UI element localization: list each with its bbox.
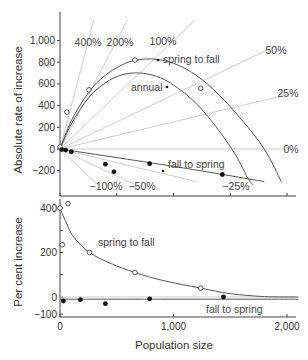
point-spring-to-fall <box>198 86 203 91</box>
reference-label-neg25pct: −25% <box>222 180 249 192</box>
point-fall-to-spring <box>147 296 152 301</box>
top-y-tick-label: 600 <box>38 78 55 89</box>
point-fall-to-spring <box>69 149 74 154</box>
point-spring-to-fall <box>66 201 71 206</box>
point-fall-to-spring <box>103 301 108 306</box>
bottom-x-tick-label: 2,000 <box>274 321 299 332</box>
reference-label-200pct: 200% <box>107 36 134 48</box>
annotation-fall-to-spring-pointer <box>162 170 165 173</box>
top-y-tick-label: 1,000 <box>30 35 55 46</box>
point-spring-to-fall <box>133 58 138 63</box>
bottom-curves <box>60 208 298 299</box>
bottom-y-tick-label: 0 <box>51 292 57 303</box>
x-axis-label: Population size <box>135 339 213 351</box>
top-y-axis-label: Absolute rate of increase <box>12 46 24 173</box>
point-fall-to-spring <box>63 148 68 153</box>
point-fall-to-spring <box>78 297 83 302</box>
bottom-y-tick-label: 400 <box>40 203 57 214</box>
top-y-tick-label: −200 <box>32 165 55 176</box>
top-y-tick-label: 400 <box>38 100 55 111</box>
point-spring-to-fall <box>133 270 138 275</box>
bottom-y-tick-label: −100 <box>34 309 57 320</box>
annotation-fall-to-spring-bottom: fall to spring <box>206 303 263 315</box>
bottom-panel: Per cent increase Population size 400200… <box>12 199 300 351</box>
reference-label-neg100pct: −100% <box>90 180 123 192</box>
point-fall-to-spring <box>112 169 117 174</box>
bottom-y-axis-label: Per cent increase <box>12 217 24 307</box>
point-fall-to-spring <box>61 299 66 304</box>
point-fall-to-spring <box>147 161 152 166</box>
annotation-spring-to-fall: spring to fall <box>163 53 220 65</box>
point-fall-to-spring <box>220 172 225 177</box>
top-y-tick-label: 200 <box>38 122 55 133</box>
top-y-tick-label: 0 <box>49 144 55 155</box>
reference-label-25pct: 25% <box>277 87 298 99</box>
point-fall-to-spring <box>221 295 226 300</box>
reference-label-0pct: 0% <box>283 143 298 155</box>
point-spring-to-fall <box>60 242 65 247</box>
reference-label-neg50pct: −50% <box>128 180 155 192</box>
reference-label-100pct: 100% <box>150 35 177 47</box>
annotation-annual: annual <box>131 81 163 93</box>
point-spring-to-fall <box>87 88 92 93</box>
point-spring-to-fall <box>87 250 92 255</box>
annotation-annual-pointer <box>166 86 169 89</box>
point-spring-to-fall <box>65 110 70 115</box>
annotation-spring-to-fall-bottom: spring to fall <box>98 236 155 248</box>
top-y-tick-label: 800 <box>38 57 55 68</box>
point-spring-to-fall <box>58 206 63 211</box>
reference-line-25pct <box>60 94 292 149</box>
bottom-x-tick-label: 0 <box>57 321 63 332</box>
top-panel: Absolute rate of increase 400%200%100%50… <box>12 12 299 196</box>
annotation-fall-to-spring: fall to spring <box>168 158 225 170</box>
bottom-y-tick-label: 200 <box>40 247 57 258</box>
annotation-spring-to-fall-pointer <box>157 59 160 62</box>
reference-label-50pct: 50% <box>265 44 286 56</box>
bottom-x-tick-label: 1,000 <box>161 321 186 332</box>
curve-fall-to-spring <box>60 149 264 182</box>
point-spring-to-fall <box>198 286 203 291</box>
point-fall-to-spring <box>103 162 108 167</box>
reference-label-400pct: 400% <box>75 36 102 48</box>
chart-figure: Absolute rate of increase 400%200%100%50… <box>0 0 308 360</box>
curve-spring-to-fall <box>60 208 298 297</box>
